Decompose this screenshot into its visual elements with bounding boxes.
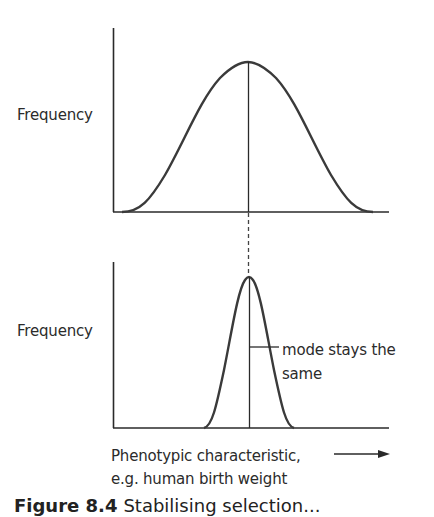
annotation-line-2: same	[282, 362, 395, 386]
x-axis-label-line-2: e.g. human birth weight	[111, 468, 301, 491]
figure-caption: Figure 8.4Stabilising selection...	[14, 495, 320, 517]
top-wide-bell-curve	[122, 62, 373, 212]
x-axis-label: Phenotypic characteristic, e.g. human bi…	[111, 445, 301, 491]
annotation-line-1: mode stays the	[282, 338, 395, 362]
caption-number: Figure 8.4	[14, 495, 117, 516]
top-axes	[113, 28, 389, 212]
bottom-y-axis-label: Frequency	[17, 322, 93, 340]
top-y-axis-label: Frequency	[17, 106, 93, 124]
right-arrow-icon	[334, 450, 390, 458]
x-axis-label-line-1: Phenotypic characteristic,	[111, 445, 301, 468]
caption-text: Stabilising selection...	[123, 495, 320, 516]
mode-annotation: mode stays the same	[282, 338, 395, 386]
